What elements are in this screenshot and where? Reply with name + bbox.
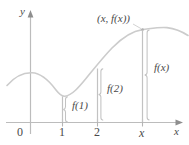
ordinate-bracket-f1 xyxy=(63,97,68,123)
annotation-fx: f(x) xyxy=(154,62,169,73)
annotation-f2: f(2) xyxy=(107,83,123,94)
x-axis-label: x xyxy=(174,126,179,137)
origin-label: 0 xyxy=(17,126,23,138)
x-tick-label-x: x xyxy=(139,127,144,139)
annotation-point-label: (x, f(x)) xyxy=(97,13,130,24)
x-tick-label-1: 1 xyxy=(59,126,65,138)
ordinate-bracket-fx xyxy=(143,30,150,122)
ordinate-bracket-f2 xyxy=(98,69,104,123)
x-tick-label-2: 2 xyxy=(94,126,100,138)
function-graph-figure: y x 0 1 2 x f(1) f(2) f(x) (x, f(x)) xyxy=(0,0,189,145)
annotation-f1: f(1) xyxy=(72,100,88,111)
y-axis-label: y xyxy=(20,6,25,17)
